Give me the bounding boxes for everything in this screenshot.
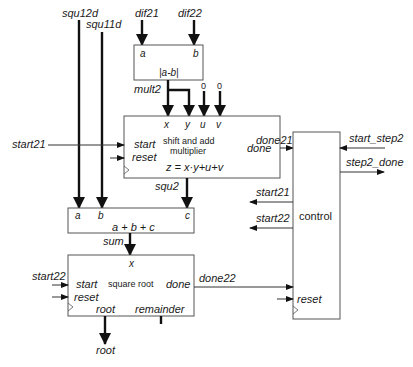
signal-label-squ11d: squ11d — [86, 18, 122, 30]
signal-label-squ2: squ2 — [155, 180, 179, 192]
sqrt-reset-port: reset — [74, 291, 99, 303]
control-title: control — [299, 210, 332, 222]
signal-label-sum: sum — [103, 235, 124, 247]
sqrt-root-port: root — [96, 303, 116, 315]
datapath-diagram: squ12d squ11d dif21 dif22 a b |a-b| mult… — [0, 0, 413, 367]
abs-diff-input-b: b — [193, 48, 199, 59]
sqrt-remainder-port: remainder — [135, 303, 186, 315]
mult-input-x: x — [163, 119, 170, 130]
mult-title-line1: shift and add — [163, 136, 215, 146]
sqrt-start-port: start — [76, 278, 98, 290]
adder-block: a b c a + b + c — [68, 208, 194, 233]
signal-label-start21-in: start21 — [12, 138, 46, 150]
adder-input-c: c — [185, 210, 190, 221]
mult-title-line2: multiplier — [170, 146, 206, 156]
abs-diff-input-a: a — [140, 48, 146, 59]
sqrt-block: x start reset square root done root rema… — [68, 255, 194, 316]
sqrt-done-port: done — [166, 278, 190, 290]
multiplier-block: x y u v shift and add multiplier start r… — [124, 116, 280, 178]
mult-start-port: start — [134, 138, 156, 150]
adder-function: a + b + c — [112, 221, 155, 233]
signal-label-dif22: dif22 — [178, 7, 202, 19]
adder-input-a: a — [75, 210, 81, 221]
signal-label-start21-out: start21 — [256, 186, 290, 198]
signal-label-start-step2: start_step2 — [349, 132, 403, 144]
sqrt-title: square root — [108, 279, 154, 289]
adder-input-b: b — [98, 210, 104, 221]
signal-label-mult2: mult2 — [134, 83, 161, 95]
signal-label-zero-u: 0 — [201, 81, 206, 91]
mult-equation: z = x·y+u+v — [165, 161, 225, 173]
control-reset-port: reset — [297, 293, 322, 305]
control-block: control reset — [293, 132, 340, 319]
signal-label-done21: done21 — [256, 134, 293, 146]
signal-label-start22-out: start22 — [256, 212, 290, 224]
signal-label-step2-done: step2_done — [346, 156, 404, 168]
signal-label-zero-v: 0 — [217, 81, 222, 91]
abs-diff-block: a b |a-b| — [134, 45, 203, 80]
signal-label-dif21: dif21 — [135, 7, 159, 19]
mult-input-y: y — [184, 119, 191, 130]
signal-label-done22: done22 — [199, 272, 236, 284]
mult-reset-port: reset — [132, 151, 157, 163]
mult-input-u: u — [200, 119, 206, 130]
sqrt-input-x: x — [128, 258, 135, 269]
signal-label-start22-in: start22 — [32, 270, 66, 282]
abs-diff-function: |a-b| — [159, 67, 179, 78]
signal-label-root-out: root — [96, 344, 116, 356]
bus-mult2-y — [168, 90, 189, 116]
